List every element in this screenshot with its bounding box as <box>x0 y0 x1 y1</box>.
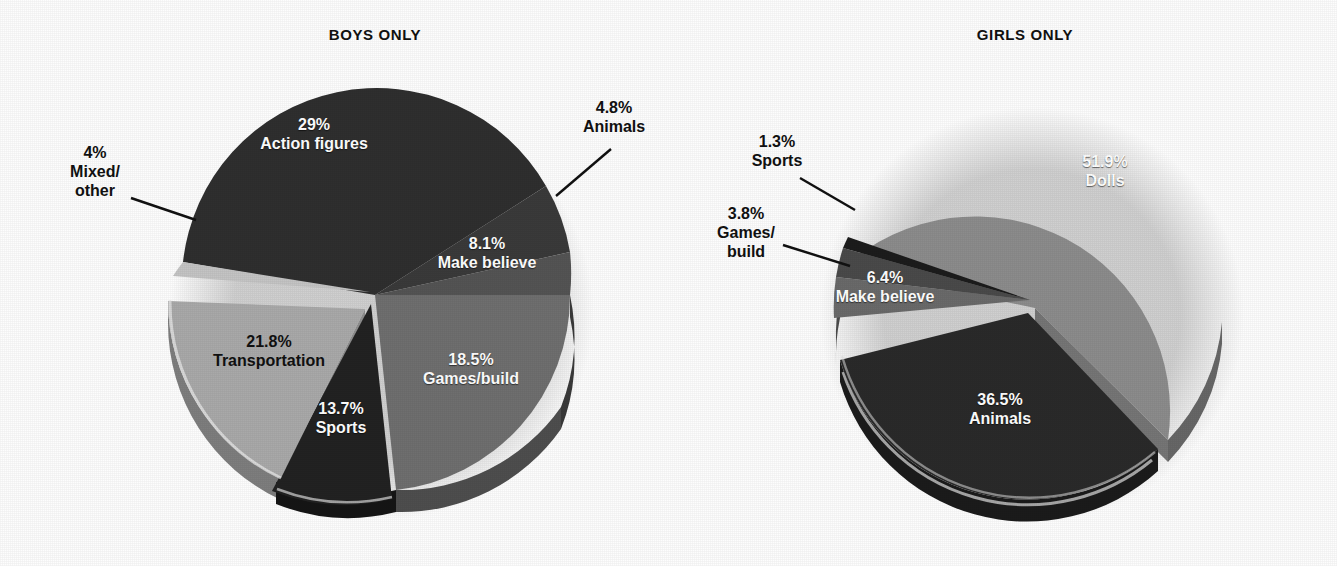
girls-sports-leader-line <box>800 178 855 210</box>
girls-pie-graphic <box>0 0 1337 566</box>
figure-canvas: BOYS ONLY <box>0 0 1337 566</box>
